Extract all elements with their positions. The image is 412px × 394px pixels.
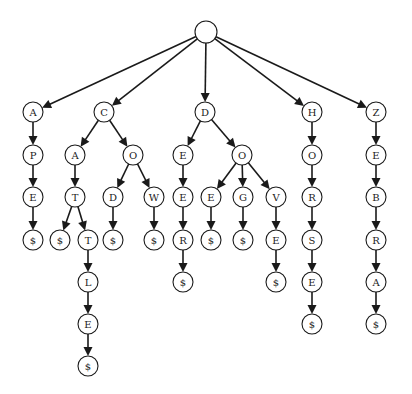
edge-do-doe — [222, 163, 236, 183]
arrowhead-icon — [308, 178, 317, 187]
arrowhead-icon — [179, 263, 188, 272]
trie-end-node: $ — [173, 272, 193, 292]
node-label: E — [207, 192, 214, 203]
trie-node: E — [266, 230, 286, 250]
node-label: O — [238, 150, 246, 161]
node-label: C — [100, 107, 108, 118]
trie-end-node: $ — [201, 230, 221, 250]
node-label: $ — [208, 235, 214, 246]
node-label: $ — [57, 235, 63, 246]
arrowhead-icon — [29, 136, 38, 145]
trie-node: E — [23, 187, 43, 207]
node-label: $ — [240, 235, 246, 246]
trie-end-node: $ — [233, 230, 253, 250]
trie-node: Z — [366, 102, 386, 122]
trie-node: B — [366, 187, 386, 207]
trie-node: T — [65, 187, 85, 207]
edge-root-c — [118, 39, 197, 101]
trie-end-node: $ — [50, 230, 70, 250]
node-label: O — [129, 150, 137, 161]
node-label: $ — [85, 361, 91, 372]
trie-node: E — [302, 272, 322, 292]
arrowhead-icon — [272, 221, 281, 230]
node-label: $ — [373, 319, 379, 330]
arrowhead-icon — [308, 136, 317, 145]
trie-end-node: $ — [366, 314, 386, 334]
node-label: S — [309, 235, 316, 246]
trie-node: V — [266, 187, 286, 207]
arrowhead-icon — [179, 221, 188, 230]
trie-end-node: $ — [103, 230, 123, 250]
node-label: W — [149, 192, 160, 203]
edge-d-do — [212, 120, 231, 142]
node-label: $ — [273, 277, 279, 288]
trie-node: H — [302, 102, 322, 122]
arrowhead-icon — [217, 179, 226, 189]
node-label: O — [308, 150, 316, 161]
node-label: $ — [180, 277, 186, 288]
node-layer: APE$CAT$TLE$OD$W$DEER$OE$G$VE$HORSE$ZEBR… — [23, 21, 386, 376]
arrowhead-icon — [308, 305, 317, 314]
trie-node: A — [23, 102, 43, 122]
node-label: A — [28, 107, 37, 118]
edge-root-a — [49, 37, 196, 105]
node-label: T — [72, 192, 79, 203]
node-label: E — [29, 192, 36, 203]
edge-cat-catt — [78, 207, 83, 223]
trie-end-node: $ — [78, 356, 98, 376]
node-label: E — [84, 319, 91, 330]
arrowhead-icon — [372, 178, 381, 187]
arrowhead-icon — [179, 178, 188, 187]
arrowhead-icon — [150, 221, 159, 230]
arrowhead-icon — [84, 347, 93, 356]
node-label: E — [179, 150, 186, 161]
trie-node: O — [232, 145, 252, 165]
edge-co-cow — [138, 164, 147, 181]
node-label: Z — [373, 107, 380, 118]
trie-node: E — [366, 145, 386, 165]
node-label: R — [179, 235, 187, 246]
arrowhead-icon — [238, 178, 247, 187]
trie-end-node: $ — [144, 230, 164, 250]
edge-c-ca — [85, 120, 98, 140]
arrowhead-icon — [294, 97, 304, 106]
trie-node: R — [173, 230, 193, 250]
edge-do-dov — [248, 163, 264, 183]
node-label: G — [239, 192, 247, 203]
trie-node: E — [201, 187, 221, 207]
edge-co-cod — [121, 164, 129, 181]
edge-cat-cat$ — [66, 206, 72, 223]
trie-node: L — [78, 272, 98, 292]
node-label: E — [308, 277, 315, 288]
trie-node: E — [173, 145, 193, 165]
edge-d-de — [191, 121, 200, 139]
arrowhead-icon — [372, 136, 381, 145]
node-label: E — [272, 235, 279, 246]
arrowhead-icon — [29, 178, 38, 187]
node-label: B — [372, 192, 379, 203]
trie-node: C — [94, 102, 114, 122]
arrowhead-icon — [261, 179, 270, 189]
trie-node: R — [302, 187, 322, 207]
node-label: P — [30, 150, 37, 161]
arrowhead-icon — [112, 97, 122, 106]
node-label: R — [308, 192, 316, 203]
node-label: $ — [151, 235, 157, 246]
arrowhead-icon — [78, 221, 87, 231]
trie-node: S — [302, 230, 322, 250]
node-label: D — [109, 192, 117, 203]
node-label: A — [70, 150, 79, 161]
arrowhead-icon — [109, 221, 118, 230]
edge-root-d — [205, 43, 206, 94]
trie-node: P — [23, 145, 43, 165]
node-label: D — [201, 107, 209, 118]
node-label: T — [85, 235, 92, 246]
node-label: A — [371, 277, 380, 288]
node-label: E — [372, 150, 379, 161]
trie-node: T — [78, 230, 98, 250]
arrowhead-icon — [308, 221, 317, 230]
trie-node: E — [78, 314, 98, 334]
trie-end-node: $ — [302, 314, 322, 334]
trie-node: A — [65, 145, 85, 165]
arrowhead-icon — [308, 263, 317, 272]
